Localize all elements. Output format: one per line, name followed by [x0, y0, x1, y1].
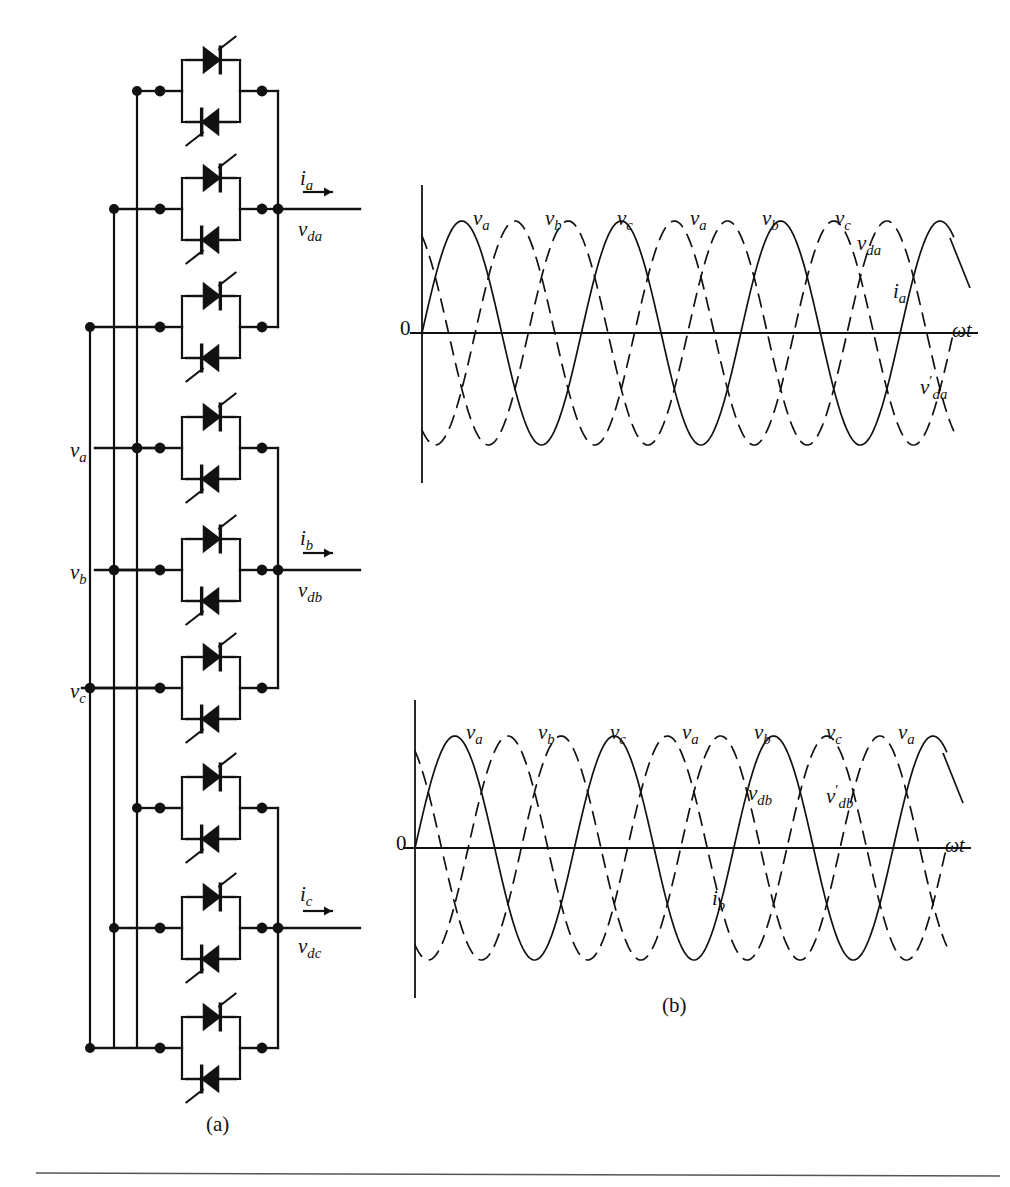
- output-current-label-phase-c-output: ic: [300, 884, 312, 909]
- input-junction-b: [109, 565, 119, 575]
- current-arrow-head-icon: [324, 188, 332, 197]
- waveform-annotation-1-3: va: [682, 722, 699, 747]
- waveform-annotation-0-8: v′da: [920, 374, 947, 402]
- x-axis-label-top: ωt: [952, 320, 972, 340]
- waveform-annotation-1-0: va: [466, 722, 483, 747]
- zero-label-top: 0: [400, 318, 411, 339]
- block-node-left: [155, 923, 166, 934]
- output-current-label-phase-a-output: ia: [300, 168, 313, 193]
- thyristor-body-icon: [203, 47, 220, 73]
- gate-lead: [218, 272, 236, 286]
- gate-lead: [186, 250, 204, 264]
- bus-junction-1: [109, 204, 119, 214]
- gate-lead: [218, 393, 236, 407]
- waveform-annotation-0-0: va: [473, 208, 490, 233]
- thyristor-0-reverse: [185, 108, 237, 147]
- thyristor-5-reverse: [185, 705, 237, 744]
- current-arrow-head-icon: [324, 549, 332, 558]
- waveform-annotation-1-4: vb: [754, 722, 771, 747]
- input-junction-c: [85, 683, 95, 693]
- trailing-stroke: [950, 238, 970, 288]
- figure-page: vavbvciavdaibvdbicvdcvavbvcvavbvcvdaiav′…: [0, 0, 1010, 1187]
- thyristor-8-reverse: [185, 1065, 237, 1104]
- gate-lead: [186, 849, 204, 863]
- thyristor-body-icon: [203, 1004, 220, 1030]
- trailing-stroke: [943, 753, 963, 803]
- thyristor-7-reverse: [185, 945, 237, 984]
- block-node-right: [257, 683, 268, 694]
- waveform-annotation-1-8: v′db: [826, 783, 853, 811]
- block-node-right: [257, 565, 268, 576]
- bus-junction-2: [85, 322, 95, 332]
- thyristor-5-forward: [185, 633, 237, 672]
- output-current-label-phase-b-output: ib: [300, 528, 313, 553]
- block-node-left: [155, 1043, 166, 1054]
- waveform-annotation-0-7: ia: [893, 281, 906, 306]
- thyristor-2-forward: [185, 272, 237, 311]
- bus-junction-6: [132, 803, 142, 813]
- circuit-diagram: [0, 0, 420, 1110]
- gate-lead: [186, 611, 204, 625]
- waveform-annotation-1-5: vc: [826, 722, 842, 747]
- thyristor-block-8: [160, 993, 262, 1103]
- thyristor-block-3: [160, 393, 262, 503]
- waveform-annotation-1-6: va: [898, 722, 915, 747]
- output-node-0: [273, 204, 284, 215]
- thyristor-block-0: [160, 36, 262, 146]
- gate-lead: [186, 1089, 204, 1103]
- gate-lead: [218, 993, 236, 1007]
- block-node-right: [257, 322, 268, 333]
- thyristor-6-forward: [185, 753, 237, 792]
- thyristor-block-4: [160, 515, 262, 625]
- gate-lead: [186, 489, 204, 503]
- gate-lead: [218, 154, 236, 168]
- input-junction-a: [132, 443, 142, 453]
- block-node-left: [155, 322, 166, 333]
- block-node-right: [257, 204, 268, 215]
- circuit-input-label-va: va: [70, 440, 87, 465]
- block-node-right: [257, 923, 268, 934]
- thyristor-body-icon: [203, 404, 220, 430]
- thyristor-block-5: [160, 633, 262, 743]
- thyristor-1-reverse: [185, 226, 237, 265]
- thyristor-4-forward: [185, 515, 237, 554]
- thyristor-3-forward: [185, 393, 237, 432]
- waveform-annotation-0-2: vc: [617, 208, 633, 233]
- gate-lead: [218, 515, 236, 529]
- waveform-annotation-1-7: vdb: [748, 783, 772, 808]
- output-node-2: [273, 923, 284, 934]
- thyristor-block-7: [160, 873, 262, 983]
- thyristor-block-6: [160, 753, 262, 863]
- thyristor-3-reverse: [185, 465, 237, 504]
- gate-lead: [186, 969, 204, 983]
- bus-junction-7: [109, 923, 119, 933]
- gate-lead: [186, 368, 204, 382]
- block-node-left: [155, 683, 166, 694]
- gate-lead: [218, 753, 236, 767]
- block-node-left: [155, 803, 166, 814]
- footer-rule: [0, 1164, 1010, 1184]
- block-node-left: [155, 443, 166, 454]
- panel-b-caption: (b): [662, 995, 687, 1016]
- output-voltage-label-phase-a-output: vda: [298, 219, 322, 244]
- waveform-annotation-0-4: vb: [762, 208, 779, 233]
- x-axis-label-bottom: ωt: [945, 835, 965, 855]
- waveform-annotation-1-1: vb: [538, 722, 555, 747]
- block-node-right: [257, 86, 268, 97]
- thyristor-6-reverse: [185, 825, 237, 864]
- thyristor-block-1: [160, 154, 262, 264]
- panel-a-caption: (a): [206, 1114, 229, 1135]
- thyristor-7-forward: [185, 873, 237, 912]
- waveform-annotation-0-3: va: [690, 208, 707, 233]
- block-node-left: [155, 204, 166, 215]
- output-voltage-label-phase-b-output: vdb: [298, 580, 322, 605]
- output-node-1: [273, 565, 284, 576]
- waveform-annotation-0-6: vda: [857, 233, 881, 258]
- thyristor-body-icon: [203, 526, 220, 552]
- thyristor-4-reverse: [185, 587, 237, 626]
- output-voltage-label-phase-c-output: vdc: [298, 936, 321, 961]
- thyristor-body-icon: [203, 764, 220, 790]
- circuit-input-label-vc: vc: [70, 681, 86, 706]
- bus-junction-0: [132, 86, 142, 96]
- waveform-annotation-1-9: ib: [712, 888, 725, 913]
